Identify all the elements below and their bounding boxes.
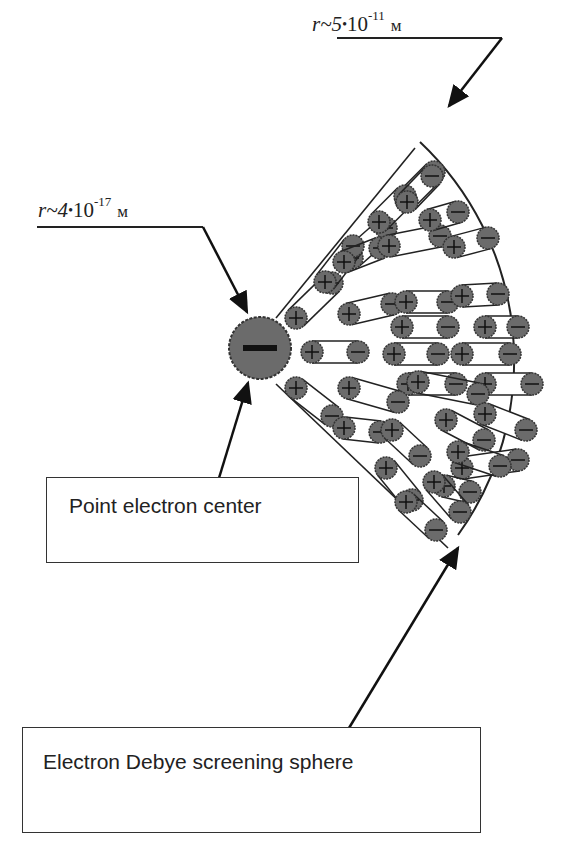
point-electron — [229, 317, 291, 379]
debye-callout-arrow — [349, 548, 458, 728]
outer-radius-label: r~5•10-11м — [312, 8, 502, 106]
point-electron-center-callout: Point electron center — [46, 477, 359, 563]
debye-sphere-callout: Electron Debye screening sphere — [22, 727, 481, 833]
point-electron-center-label: Point electron center — [69, 494, 262, 518]
center-callout-arrow — [219, 383, 248, 478]
svg-text:r~5•10-11м: r~5•10-11м — [312, 8, 402, 36]
inner-radius-label: r~4•10-17м — [37, 194, 247, 312]
debye-sphere-label: Electron Debye screening sphere — [43, 750, 354, 774]
svg-text:r~4•10-17м: r~4•10-17м — [38, 194, 128, 222]
debye-screening-diagram: r~5•10-11м r~4•10-17м — [0, 0, 576, 842]
